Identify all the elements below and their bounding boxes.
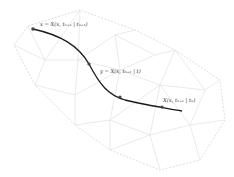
start-point [31,27,35,31]
middle-point [87,62,90,65]
label-start: x = X(x, tₙ₊₁ | tₙ₊₁) [40,21,88,28]
label-end: X(x, tₙ₊₁ | tₙ) [162,97,195,104]
end-point [160,105,163,108]
trajectory-diagram: x = X(x, tₙ₊₁ | tₙ₊₁) y = X(x, tₙ₊₁ | t)… [0,0,234,177]
triangular-mesh [14,10,225,170]
mid2-point [118,95,121,98]
label-middle: y = X(x, tₙ₊₁ | t) [99,68,141,75]
